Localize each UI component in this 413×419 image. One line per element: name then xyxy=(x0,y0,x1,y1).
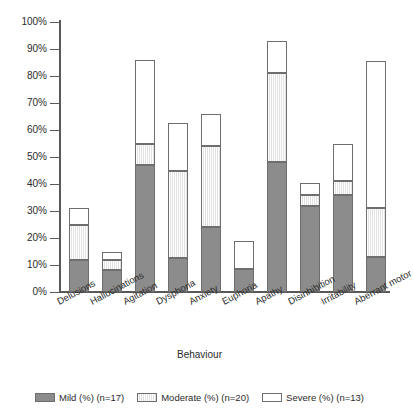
bar-group[interactable] xyxy=(300,22,320,292)
chart-legend: Mild (%) (n=17)Moderate (%) (n=20)Severe… xyxy=(0,392,399,403)
bar-segment-moderate[interactable] xyxy=(366,208,386,257)
y-axis-tick-label: 40% xyxy=(3,179,47,189)
bar-segment-severe[interactable] xyxy=(300,183,320,195)
bar-segment-severe[interactable] xyxy=(168,123,188,170)
bar-segment-mild[interactable] xyxy=(300,206,320,292)
bar-segment-severe[interactable] xyxy=(333,144,353,182)
y-axis-tick-label: 80% xyxy=(3,71,47,81)
y-axis-tick xyxy=(50,265,59,266)
y-axis-tick xyxy=(50,103,59,104)
bar-segment-severe[interactable] xyxy=(201,114,221,146)
y-axis-tick xyxy=(50,211,59,212)
legend-swatch-mild xyxy=(35,393,55,402)
bar-group[interactable] xyxy=(135,22,155,292)
y-axis-tick-label: 90% xyxy=(3,44,47,54)
bar-segment-moderate[interactable] xyxy=(201,146,221,227)
bar-group[interactable] xyxy=(366,22,386,292)
legend-item[interactable]: Mild (%) (n=17) xyxy=(35,392,124,403)
bar-group[interactable] xyxy=(102,22,122,292)
y-axis-tick xyxy=(50,49,59,50)
bar-segment-moderate[interactable] xyxy=(168,171,188,259)
bar-segment-mild[interactable] xyxy=(201,227,221,292)
bar-segment-moderate[interactable] xyxy=(267,73,287,162)
bar-group[interactable] xyxy=(333,22,353,292)
y-axis-tick xyxy=(50,157,59,158)
bar-group[interactable] xyxy=(69,22,89,292)
bar-segment-severe[interactable] xyxy=(366,61,386,208)
bar-group[interactable] xyxy=(267,22,287,292)
bar-segment-moderate[interactable] xyxy=(102,260,122,271)
bar-segment-moderate[interactable] xyxy=(333,181,353,195)
bar-segment-severe[interactable] xyxy=(135,60,155,144)
bar-group[interactable] xyxy=(168,22,188,292)
y-axis-tick-label: 30% xyxy=(3,206,47,216)
legend-swatch-moderate xyxy=(137,393,157,402)
bar-segment-moderate[interactable] xyxy=(69,225,89,260)
y-axis-tick xyxy=(50,76,59,77)
bar-segment-severe[interactable] xyxy=(267,41,287,73)
y-axis-tick xyxy=(50,22,59,23)
y-axis-tick-label: 20% xyxy=(3,233,47,243)
legend-label: Severe (%) (n=13) xyxy=(286,392,364,403)
y-axis-tick xyxy=(50,292,59,293)
bar-group[interactable] xyxy=(234,22,254,292)
x-axis-title: Behaviour xyxy=(0,349,399,360)
y-axis-tick-label: 50% xyxy=(3,152,47,162)
y-axis-tick-label: 10% xyxy=(3,260,47,270)
bar-segment-moderate[interactable] xyxy=(135,144,155,166)
plot-area xyxy=(60,22,390,292)
y-axis-tick xyxy=(50,184,59,185)
bar-segment-moderate[interactable] xyxy=(300,195,320,206)
bar-segment-mild[interactable] xyxy=(333,195,353,292)
y-axis-tick xyxy=(50,130,59,131)
y-axis-tick xyxy=(50,238,59,239)
legend-swatch-severe xyxy=(262,393,282,402)
legend-item[interactable]: Severe (%) (n=13) xyxy=(262,392,364,403)
legend-label: Mild (%) (n=17) xyxy=(59,392,124,403)
bar-segment-severe[interactable] xyxy=(69,208,89,224)
y-axis-tick-label: 70% xyxy=(3,98,47,108)
y-axis-tick-label: 60% xyxy=(3,125,47,135)
y-axis-tick-label: 100% xyxy=(3,17,47,27)
legend-label: Moderate (%) (n=20) xyxy=(161,392,249,403)
bar-segment-severe[interactable] xyxy=(102,252,122,260)
y-axis-tick-label: 0% xyxy=(3,287,47,297)
bar-segment-severe[interactable] xyxy=(234,241,254,269)
legend-item[interactable]: Moderate (%) (n=20) xyxy=(137,392,249,403)
bar-group[interactable] xyxy=(201,22,221,292)
bar-segment-mild[interactable] xyxy=(267,162,287,292)
